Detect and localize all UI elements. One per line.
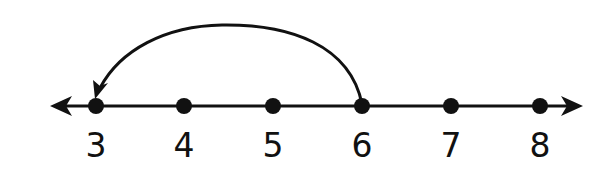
- tick-dot-7: [443, 98, 459, 114]
- tick-label-6: 6: [342, 126, 382, 166]
- arc-arrowhead-icon: [93, 80, 108, 99]
- tick-label-3: 3: [76, 126, 116, 166]
- tick-label-8: 8: [520, 126, 560, 166]
- tick-label-4: 4: [164, 126, 204, 166]
- jump-arc: [100, 25, 362, 104]
- tick-label-5: 5: [253, 126, 293, 166]
- tick-dot-5: [265, 98, 281, 114]
- tick-label-7: 7: [431, 126, 471, 166]
- tick-dot-4: [176, 98, 192, 114]
- number-line-diagram: 3 4 5 6 7 8: [0, 0, 611, 178]
- tick-dot-3: [88, 98, 104, 114]
- tick-dot-8: [532, 98, 548, 114]
